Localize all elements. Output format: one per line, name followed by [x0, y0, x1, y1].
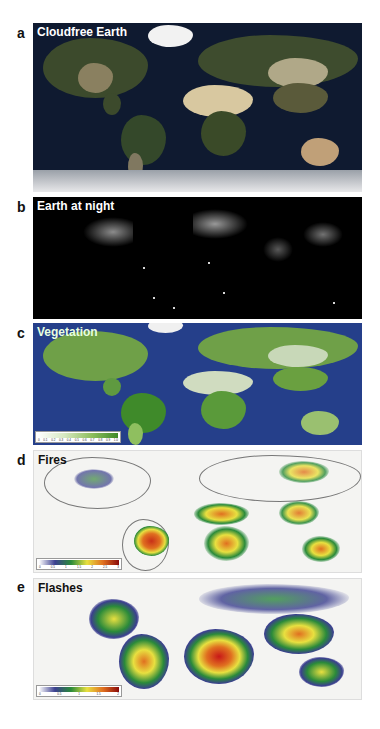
colorbar-ticks: 0 0.1 0.2 0.3 0.4 0.5 0.6 0.7 0.8 0.9 1.… — [38, 438, 118, 442]
panel-e-letter: e — [17, 580, 25, 594]
tick-label: 0.4 — [67, 438, 71, 442]
tick-label: 1.5 — [96, 692, 100, 696]
australia-fires — [302, 536, 340, 562]
city-light — [223, 292, 225, 294]
city-light — [208, 262, 210, 264]
flashes-colorbar: 0 0.5 1 1.5 2 — [36, 685, 122, 697]
panel-c-letter: c — [17, 326, 25, 340]
tick-label: 1.5 — [77, 565, 81, 569]
europe-lights — [193, 209, 248, 239]
tick-label: 0.3 — [59, 438, 63, 442]
central-america-shape — [103, 378, 121, 396]
vegetation-colorbar: 0 0.1 0.2 0.3 0.4 0.5 0.6 0.7 0.8 0.9 1.… — [35, 431, 121, 443]
colorbar-ticks: 0 0.5 1 1.5 2 2.5 3 — [39, 565, 119, 569]
tick-label: 1 — [78, 692, 80, 696]
panel-fires: Fires 0 0.5 1 1.5 2 2.5 3 — [33, 450, 362, 573]
panel-c-title: Vegetation — [37, 326, 98, 339]
australia-shape — [301, 138, 339, 166]
africa-south-fires — [204, 526, 249, 561]
greenland-shape — [148, 25, 193, 47]
south-asia-shape — [273, 367, 328, 391]
americas-flashes — [89, 599, 139, 639]
panel-cloudfree-earth: Cloudfree Earth — [33, 23, 362, 192]
panel-b-letter: b — [17, 200, 26, 214]
south-asia-flashes — [264, 614, 334, 654]
south-america-flashes — [119, 634, 169, 689]
tick-label: 3 — [117, 565, 119, 569]
colorbar-ticks: 0 0.5 1 1.5 2 — [39, 692, 119, 696]
panel-d-title: Fires — [38, 454, 67, 467]
central-africa-shape — [201, 111, 246, 156]
south-asia-fires — [279, 501, 319, 525]
tick-label: 1 — [65, 565, 67, 569]
tick-label: 2 — [91, 565, 93, 569]
fires-colorbar: 0 0.5 1 1.5 2 2.5 3 — [36, 558, 122, 570]
city-light — [153, 297, 155, 299]
tick-label: 0 — [39, 692, 41, 696]
south-america-tip-shape — [128, 423, 143, 445]
australia-flashes — [299, 657, 344, 687]
tick-label: 0.5 — [57, 692, 61, 696]
central-africa-shape — [201, 391, 246, 429]
tick-label: 0.2 — [51, 438, 55, 442]
africa-north-fires — [194, 503, 249, 525]
tick-label: 0.1 — [43, 438, 47, 442]
africa-flashes — [184, 629, 254, 684]
city-light — [333, 302, 335, 304]
tick-label: 2.5 — [103, 565, 107, 569]
antarctica-shape — [33, 170, 362, 192]
tick-label: 0.8 — [98, 438, 102, 442]
central-america-shape — [103, 93, 121, 115]
panel-vegetation: Vegetation 0 0.1 0.2 0.3 0.4 0.5 0.6 0.7… — [33, 323, 362, 445]
eurasia-flashes — [199, 584, 349, 614]
panel-a-title: Cloudfree Earth — [37, 26, 127, 39]
usa-lights — [83, 217, 133, 247]
tick-label: 0.5 — [75, 438, 79, 442]
tick-label: 0.5 — [51, 565, 55, 569]
india-lights — [263, 237, 293, 262]
tick-label: 0.7 — [90, 438, 94, 442]
south-america-shape — [121, 393, 166, 433]
south-america-shape — [121, 115, 166, 165]
panel-flashes: Flashes 0 0.5 1 1.5 2 — [33, 578, 362, 700]
city-light — [173, 307, 175, 309]
australia-shape — [301, 411, 339, 435]
tick-label: 1.0 — [114, 438, 118, 442]
tick-label: 0 — [38, 438, 40, 442]
eurasia-outline — [199, 455, 361, 502]
greenland-shape — [148, 323, 183, 333]
panel-b-title: Earth at night — [37, 200, 114, 213]
panel-earth-at-night: Earth at night — [33, 197, 362, 319]
panel-e-title: Flashes — [38, 582, 83, 595]
panel-a-letter: a — [17, 26, 25, 40]
city-light — [143, 267, 145, 269]
panel-d-letter: d — [17, 453, 26, 467]
tick-label: 0.6 — [82, 438, 86, 442]
tick-label: 0 — [39, 565, 41, 569]
tick-label: 2 — [117, 692, 119, 696]
east-asia-lights — [303, 222, 343, 247]
tick-label: 0.9 — [106, 438, 110, 442]
south-asia-shape — [273, 83, 328, 113]
